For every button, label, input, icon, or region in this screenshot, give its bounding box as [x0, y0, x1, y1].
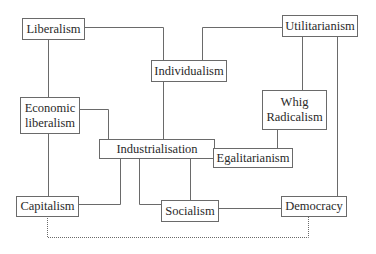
edge-egalitarianism-socialism: [191, 159, 214, 201]
node-egalitarianism: Egalitarianism: [213, 148, 293, 168]
node-industrialisation: Industrialisation: [99, 139, 215, 159]
edge-economic-liberalism-industrialisation: [79, 110, 109, 141]
node-whig-radicalism: Whig Radicalism: [262, 90, 327, 130]
edge-liberalism-individualism: [84, 28, 164, 61]
node-individualism: Individualism: [151, 60, 227, 82]
edge-utilitarianism-individualism: [203, 28, 283, 61]
node-socialism: Socialism: [161, 200, 219, 222]
node-liberalism: Liberalism: [22, 18, 85, 40]
node-utilitarianism: Utilitarianism: [282, 15, 358, 37]
node-economic-liberalism: Economic liberalism: [20, 97, 80, 134]
edge-industrialisation-socialism: [140, 158, 162, 205]
node-capitalism: Capitalism: [16, 196, 79, 217]
node-democracy: Democracy: [281, 196, 347, 217]
edge-industrialisation-capitalism: [78, 158, 121, 205]
